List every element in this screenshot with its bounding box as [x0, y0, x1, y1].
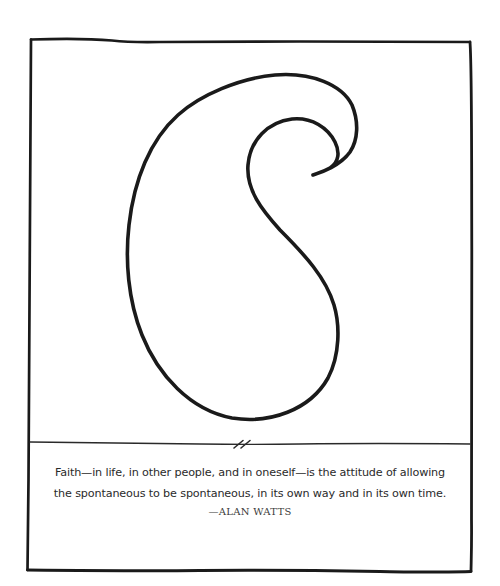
- paisley-icon: [127, 75, 356, 420]
- quote-line-2: the spontaneous to be spontaneous, in it…: [30, 483, 470, 504]
- quote-block: Faith—in life, in other people, and in o…: [30, 462, 470, 519]
- section-divider: [30, 441, 470, 449]
- quote-line-1: Faith—in life, in other people, and in o…: [30, 462, 470, 483]
- quote-attribution: —ALAN WATTS: [30, 505, 470, 519]
